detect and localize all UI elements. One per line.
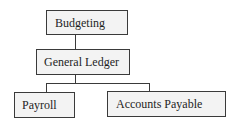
connector-to-payroll — [46, 83, 47, 92]
connector-ledger-stem — [75, 75, 76, 83]
node-label: Accounts Payable — [116, 98, 202, 110]
connector-to-accounts-payable — [149, 83, 150, 91]
node-label: General Ledger — [44, 56, 119, 68]
node-accounts-payable: Accounts Payable — [107, 91, 226, 117]
node-payroll: Payroll — [14, 92, 75, 118]
connector-ledger-branch — [46, 83, 150, 84]
node-label: Budgeting — [55, 17, 105, 29]
node-label: Payroll — [22, 99, 57, 111]
node-general-ledger: General Ledger — [36, 49, 130, 75]
connector-budgeting-to-ledger — [75, 35, 76, 49]
node-budgeting: Budgeting — [46, 10, 128, 35]
